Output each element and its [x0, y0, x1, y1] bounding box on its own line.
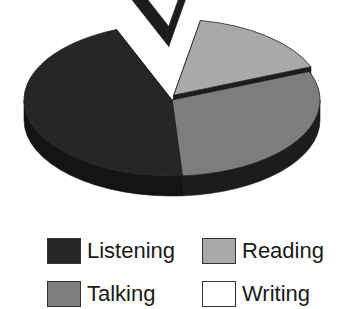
- legend-item-writing: Writing: [202, 279, 310, 309]
- pie-chart: [0, 0, 350, 230]
- legend-swatch-talking: [47, 281, 81, 307]
- legend-item-talking: Talking: [47, 279, 155, 309]
- legend-label-writing: Writing: [242, 281, 310, 307]
- legend-label-reading: Reading: [242, 238, 324, 264]
- legend-item-listening: Listening: [47, 236, 175, 266]
- legend-swatch-reading: [202, 238, 236, 264]
- legend-item-reading: Reading: [202, 236, 324, 266]
- legend-label-talking: Talking: [87, 281, 155, 307]
- legend-swatch-listening: [47, 238, 81, 264]
- legend-label-listening: Listening: [87, 238, 175, 264]
- legend-swatch-writing: [202, 281, 236, 307]
